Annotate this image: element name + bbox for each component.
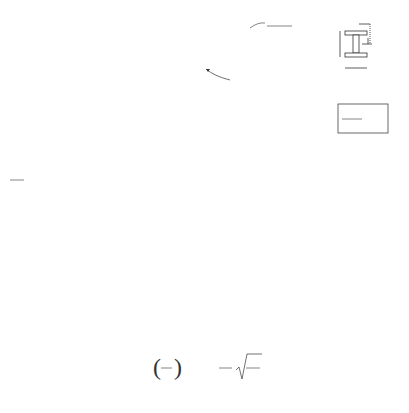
- boxed-condition: [0, 0, 388, 133]
- i-section-inset: [340, 24, 372, 68]
- weak-axis-annotation: [206, 69, 230, 80]
- chart: ( ): [0, 0, 409, 413]
- parameter-leader-line: [250, 23, 265, 28]
- bottom-flange: [345, 53, 367, 57]
- condition-box: [338, 104, 388, 133]
- sqrt-sign: [236, 354, 262, 379]
- top-flange: [345, 31, 367, 35]
- weak-axis-arrow: [206, 69, 230, 80]
- series-parameter-label: [0, 0, 292, 28]
- y-axis-label: [0, 0, 24, 180]
- paren-right: ): [174, 354, 182, 380]
- x-axis-label: ( ): [0, 0, 262, 380]
- paren-left: (: [153, 354, 161, 380]
- web: [353, 35, 359, 53]
